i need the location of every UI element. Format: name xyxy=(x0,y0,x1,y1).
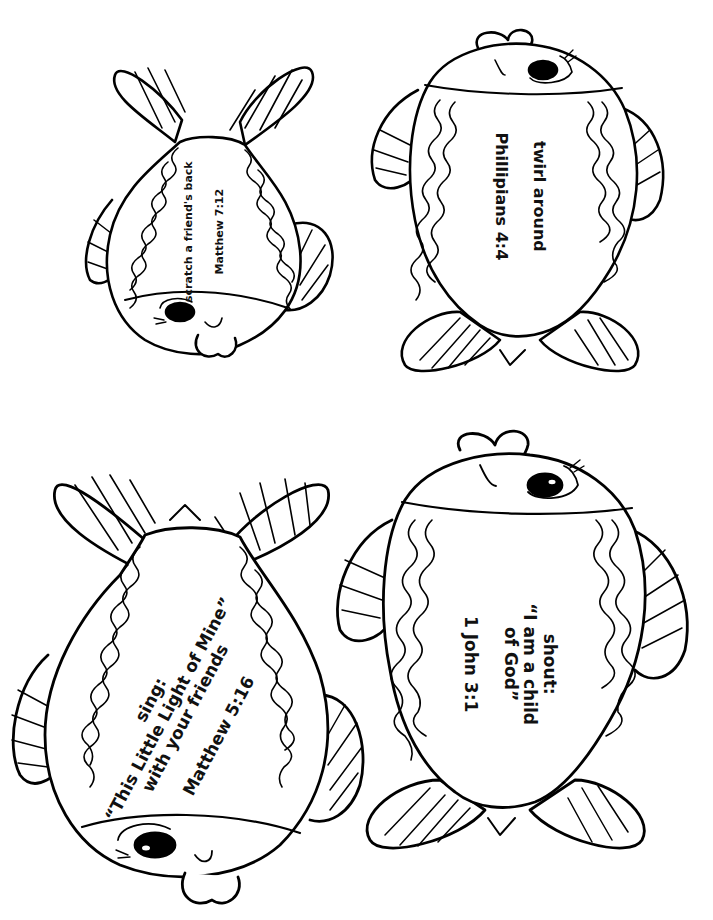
eye-icon xyxy=(528,474,562,496)
scripture-reference: 1 John 3:1 xyxy=(461,524,481,804)
action-text: twirl around xyxy=(530,76,548,316)
fish-card-bottom-right: shout: “I am a child of God” 1 John 3:1 xyxy=(330,420,713,910)
fish-text-block: twirl around Phillipians 4:4 xyxy=(492,76,549,316)
fish-text-block: shout: “I am a child of God” 1 John 3:1 xyxy=(461,524,559,804)
fish-card-top-right: twirl around Phillipians 4:4 xyxy=(360,20,680,410)
action-text-line: of God” xyxy=(500,524,520,804)
fish-text-block: scratch a friend's back Matthew 7:12 xyxy=(183,112,226,352)
scripture-reference: Matthew 7:12 xyxy=(214,112,227,352)
fish-card-bottom-left: sing: “This Little Light of Mine” with y… xyxy=(0,455,370,920)
action-text-line: “I am a child xyxy=(520,524,540,804)
action-text-line: shout: xyxy=(540,524,560,804)
scripture-reference: Phillipians 4:4 xyxy=(492,76,510,316)
fish-card-top-left: scratch a friend's back Matthew 7:12 xyxy=(80,50,330,390)
action-text: scratch a friend's back xyxy=(183,112,196,352)
